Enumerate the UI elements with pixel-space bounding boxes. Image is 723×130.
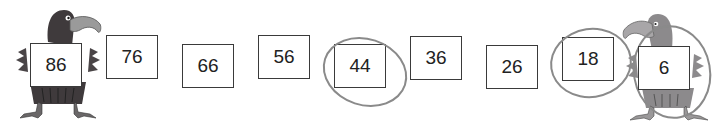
number-value: 6 bbox=[659, 57, 670, 79]
number-box-6: 6 bbox=[638, 46, 690, 90]
number-value: 76 bbox=[121, 46, 142, 68]
number-value: 86 bbox=[45, 54, 66, 76]
number-box-56: 56 bbox=[258, 35, 310, 79]
number-value: 44 bbox=[349, 55, 370, 77]
number-value: 56 bbox=[273, 46, 294, 68]
number-value: 26 bbox=[501, 56, 522, 78]
number-box-44: 44 bbox=[334, 44, 386, 88]
number-value: 36 bbox=[425, 47, 446, 69]
number-box-36: 36 bbox=[410, 36, 462, 80]
number-box-66: 66 bbox=[182, 44, 234, 88]
number-box-26: 26 bbox=[486, 45, 538, 89]
number-box-86: 86 bbox=[30, 43, 82, 87]
number-box-76: 76 bbox=[106, 35, 158, 79]
number-value: 18 bbox=[577, 48, 598, 70]
number-sequence-worksheet: 86 76 66 56 44 36 26 18 6 bbox=[0, 0, 723, 130]
number-value: 66 bbox=[197, 55, 218, 77]
number-box-18: 18 bbox=[562, 37, 614, 81]
